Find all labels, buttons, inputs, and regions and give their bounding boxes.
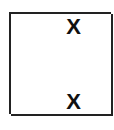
cell-r3-c2[interactable] (36, 64, 63, 91)
cell-r3-c4[interactable] (86, 64, 113, 91)
cell-r3-c1[interactable] (11, 64, 38, 91)
cell-r1-c1[interactable] (11, 14, 38, 41)
cell-r4-c4[interactable] (86, 89, 113, 116)
cell-r4-c2[interactable] (36, 89, 63, 116)
cell-r2-c2[interactable] (36, 39, 63, 66)
cell-r2-c3[interactable] (61, 39, 88, 66)
cell-r4-c3[interactable]: X (61, 89, 88, 116)
game-board: X X (9, 12, 111, 114)
cell-r1-c4[interactable] (86, 14, 113, 41)
cell-r1-c2[interactable] (36, 14, 63, 41)
cell-r2-c4[interactable] (86, 39, 113, 66)
cell-r4-c1[interactable] (11, 89, 38, 116)
cell-r3-c3[interactable] (61, 64, 88, 91)
cell-r2-c1[interactable] (11, 39, 38, 66)
cell-r1-c3[interactable]: X (61, 14, 88, 41)
